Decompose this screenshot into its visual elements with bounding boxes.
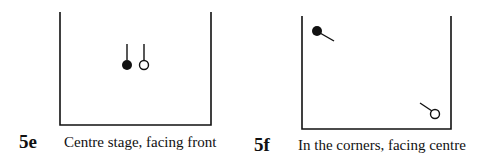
- performer-hollow-icon-5e: [140, 61, 149, 70]
- performer-filled-icon-5f: [312, 26, 322, 36]
- caption-5f: In the corners, facing centre: [298, 138, 466, 153]
- figure-label-5e: 5e: [19, 132, 37, 151]
- facing-line-filled-5f: [320, 33, 334, 41]
- facing-line-hollow-5f: [420, 103, 432, 111]
- caption-5e: Centre stage, facing front: [64, 135, 216, 150]
- stage-box-5f: [302, 16, 451, 129]
- figure-5f: [302, 16, 451, 129]
- figure-5e: [60, 12, 211, 125]
- performer-filled-icon-5e: [122, 60, 132, 70]
- performer-hollow-icon-5f: [431, 110, 440, 119]
- figure-label-5f: 5f: [254, 135, 270, 154]
- stage-box-5e: [60, 12, 211, 125]
